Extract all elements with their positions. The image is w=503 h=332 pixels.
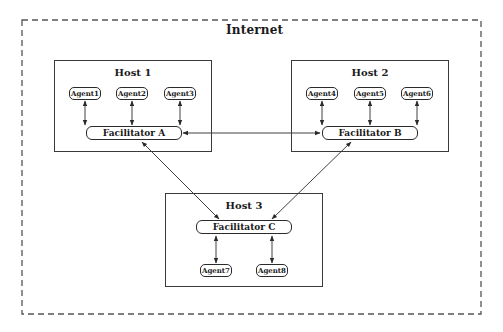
- agent-3-node: Agent3: [164, 87, 196, 100]
- agent-4-node: Agent4: [306, 87, 338, 100]
- host-1-title: Host 1: [55, 67, 211, 78]
- host-2-title: Host 2: [292, 67, 448, 78]
- agent-1-node: Agent1: [69, 87, 101, 100]
- agent-8-node: Agent8: [256, 264, 288, 277]
- agent-architecture-diagram: Internet Host 1 Agent1 Agent2 Agent3 Fac…: [0, 0, 503, 332]
- host-3-box: Host 3: [165, 193, 323, 287]
- internet-label: Internet: [226, 23, 283, 37]
- host-3-title: Host 3: [166, 200, 322, 211]
- facilitator-c-node: Facilitator C: [196, 220, 292, 234]
- facilitator-a-node: Facilitator A: [86, 126, 182, 140]
- facilitator-b-node: Facilitator B: [322, 126, 418, 140]
- agent-6-node: Agent6: [401, 87, 433, 100]
- agent-5-node: Agent5: [354, 87, 386, 100]
- agent-2-node: Agent2: [116, 87, 148, 100]
- agent-7-node: Agent7: [200, 264, 232, 277]
